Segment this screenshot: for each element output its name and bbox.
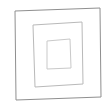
nested-squares-figure	[0, 0, 107, 110]
figure-canvas	[0, 0, 107, 110]
